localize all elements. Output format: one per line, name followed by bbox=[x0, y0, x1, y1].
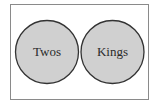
venn-diagram: Twos Kings bbox=[0, 0, 157, 106]
label-kings: Kings bbox=[97, 44, 128, 59]
label-twos: Twos bbox=[33, 44, 61, 59]
set-twos: Twos bbox=[16, 21, 79, 84]
set-kings: Kings bbox=[81, 21, 144, 84]
